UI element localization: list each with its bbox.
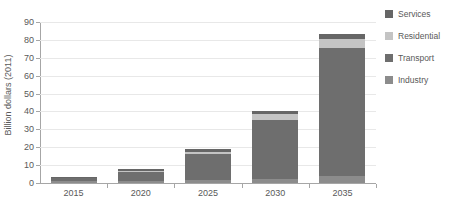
y-tick-mark [36, 94, 40, 95]
legend-swatch-icon [385, 32, 393, 40]
y-tick-mark [36, 22, 40, 23]
legend-label: Transport [398, 53, 434, 63]
bar-segment-industry[interactable] [252, 179, 298, 183]
stacked-bar-chart: Billion dollars (2011) 90807060504030201… [0, 0, 458, 213]
x-tick-mark [174, 184, 175, 188]
x-axis-line [40, 183, 376, 184]
bar-segment-transport[interactable] [252, 120, 298, 180]
y-tick-mark [36, 129, 40, 130]
x-tick-label: 2015 [64, 188, 84, 198]
legend-label: Residential [398, 31, 440, 41]
y-tick-mark [36, 111, 40, 112]
legend-item[interactable]: Residential [385, 30, 458, 41]
y-tick-mark [36, 147, 40, 148]
bar-stack[interactable] [319, 34, 365, 183]
bar-stack[interactable] [118, 169, 164, 183]
y-tick-label: 80 [24, 35, 34, 45]
y-tick-label: 20 [24, 142, 34, 152]
y-axis-title-label: Billion dollars (2011) [3, 55, 13, 136]
legend-item[interactable]: Transport [385, 52, 458, 63]
legend-label: Services [398, 9, 431, 19]
y-tick-label: 30 [24, 124, 34, 134]
y-tick-label: 70 [24, 53, 34, 63]
y-tick-label: 10 [24, 160, 34, 170]
bar-segment-industry[interactable] [185, 180, 231, 183]
bar-segment-transport[interactable] [185, 154, 231, 180]
bar-segment-residential[interactable] [319, 39, 365, 48]
x-tick-mark [107, 184, 108, 188]
y-tick-mark [36, 40, 40, 41]
y-tick-label: 90 [24, 17, 34, 27]
legend-item[interactable]: Industry [385, 74, 458, 85]
plot-area [40, 22, 376, 183]
legend-item[interactable]: Services [385, 8, 458, 19]
y-tick-label: 50 [24, 89, 34, 99]
legend-swatch-icon [385, 76, 393, 84]
y-tick-label: 0 [29, 178, 34, 188]
chart-legend: ServicesResidentialTransportIndustry [385, 8, 458, 96]
x-tick-mark [242, 184, 243, 188]
y-axis-tick-labels: 9080706050403020100 [14, 0, 38, 213]
y-tick-label: 40 [24, 106, 34, 116]
y-tick-label: 60 [24, 71, 34, 81]
bar-segment-industry[interactable] [118, 181, 164, 183]
bar-stack[interactable] [185, 149, 231, 183]
bar-stack[interactable] [51, 177, 97, 183]
bar-segment-transport[interactable] [319, 48, 365, 176]
bar-stack[interactable] [252, 111, 298, 183]
x-tick-label: 2020 [131, 188, 151, 198]
gridline [40, 22, 376, 23]
legend-swatch-icon [385, 10, 393, 18]
bar-segment-industry[interactable] [51, 181, 97, 183]
legend-label: Industry [398, 75, 428, 85]
y-tick-mark [36, 183, 40, 184]
x-tick-label: 2030 [265, 188, 285, 198]
x-axis-tick-labels: 20152020202520302035 [40, 188, 376, 208]
x-tick-mark [309, 184, 310, 188]
bar-segment-transport[interactable] [118, 172, 164, 181]
x-tick-mark [376, 184, 377, 188]
bar-segment-industry[interactable] [319, 176, 365, 183]
y-tick-mark [36, 76, 40, 77]
x-tick-label: 2025 [198, 188, 218, 198]
y-tick-mark [36, 165, 40, 166]
x-tick-label: 2035 [332, 188, 352, 198]
legend-swatch-icon [385, 54, 393, 62]
y-tick-mark [36, 58, 40, 59]
